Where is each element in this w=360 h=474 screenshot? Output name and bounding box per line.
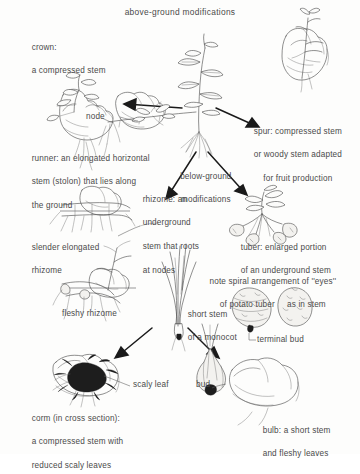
label-monocot-short-stem: short stem of a monocot xyxy=(178,297,237,356)
runner-line-1: runner: an elongated horizontal xyxy=(32,154,150,163)
corm-line-1: corm (in cross section): xyxy=(32,414,120,423)
label-crown: crown: a compressed stem xyxy=(22,30,106,89)
bulb-line-2: and fleshy leaves xyxy=(263,449,329,458)
arrow-center-to-crown xyxy=(124,99,182,110)
spur-line-2: or woody stem adapted xyxy=(254,150,342,159)
label-terminal-bud: terminal bud xyxy=(257,334,304,346)
label-runner: runner: an elongated horizontal stem (st… xyxy=(22,141,150,224)
corm-line-2: a compressed stem with xyxy=(32,437,124,446)
spur-line-3: for fruit production xyxy=(263,174,332,183)
runner-line-2: stem (stolon) that lies along xyxy=(32,177,136,186)
terminal-bud-leader xyxy=(249,333,256,340)
slender-line-1: slender elongated xyxy=(32,243,100,252)
label-spur: spur: compressed stem or woody stem adap… xyxy=(228,114,358,197)
monocot-line-2: of a monocot xyxy=(188,333,237,342)
crown-line-1: crown: xyxy=(32,43,57,52)
arrow-center-to-corm xyxy=(115,328,152,358)
spur-line-1: spur: compressed stem xyxy=(254,127,342,136)
spur-twig-in-hand-illustration xyxy=(282,8,329,92)
label-slender-rhizome: slender elongated rhizome xyxy=(22,230,99,289)
corm-cross-section-in-hand-illustration xyxy=(53,354,130,407)
label-bud: bud xyxy=(196,379,210,391)
label-corm: corm (in cross section): a compressed st… xyxy=(22,401,123,474)
rhizome-line-2: underground xyxy=(143,218,191,227)
figure-title: above-ground modifications xyxy=(0,7,360,17)
label-scaly-leaf: scaly leaf xyxy=(133,379,169,391)
tuber-line-1: tuber: enlarged portion xyxy=(241,243,327,252)
monocot-line-1: short stem xyxy=(188,310,228,319)
below-line-1: below-ground xyxy=(180,172,231,181)
bulb-line-1: bulb: a short stem xyxy=(263,426,331,435)
label-bulb: bulb: a short stem and fleshy leaves xyxy=(253,413,330,472)
crown-line-2: a compressed stem xyxy=(32,66,106,75)
central-whole-plant-illustration xyxy=(178,34,223,158)
eyes-line-1: note spiral arrangement of ''eyes'' xyxy=(210,277,337,286)
slender-line-2: rhizome xyxy=(32,266,62,275)
label-node: node xyxy=(86,111,105,123)
runner-line-3: the ground xyxy=(32,201,73,210)
rhizome-line-1: rhizome: an xyxy=(143,195,187,204)
rhizome-line-4: at nodes xyxy=(143,266,176,275)
rhizome-line-3: stem that roots xyxy=(143,242,199,251)
corm-line-3: reduced scaly leaves xyxy=(32,461,111,470)
label-fleshy-rhizome: fleshy rhizome xyxy=(62,308,117,320)
